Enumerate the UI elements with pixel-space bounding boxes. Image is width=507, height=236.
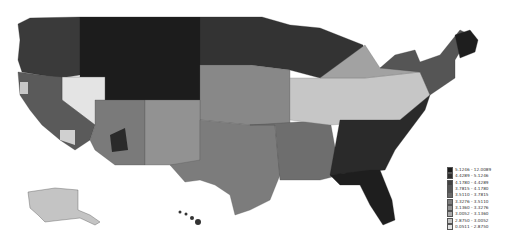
legend-swatch [447,224,453,230]
map-legend: 5.1246 - 12.0089 4.4289 - 5.1246 4.1780 … [447,167,505,230]
region-florida [330,170,395,225]
legend-label: 3.5110 - 3.7815 [455,192,488,198]
legend-label: 3.0052 - 3.1360 [455,211,488,217]
legend-label: 4.4289 - 5.1246 [455,173,488,179]
legend-label: 3.3276 - 3.5110 [455,199,488,205]
legend-label: 3.1360 - 3.3276 [455,205,488,211]
region-pacific-northwest [18,17,80,78]
region-california-light [20,82,28,94]
legend-row: 0.0511 - 2.8750 [447,224,505,230]
legend-swatch [447,205,453,211]
legend-label: 2.8750 - 3.0052 [455,218,488,224]
legend-label: 0.0511 - 2.8750 [455,224,488,230]
legend-label: 3.7815 - 4.1780 [455,186,488,192]
legend-label: 5.1246 - 12.0089 [455,167,491,173]
legend-swatch [447,211,453,217]
legend-swatch [447,218,453,224]
region-alaska [28,188,100,225]
choropleth-map [0,0,507,236]
legend-swatch [447,192,453,198]
legend-swatch [447,180,453,186]
legend-swatch [447,186,453,192]
legend-label: 4.1780 - 4.4289 [455,180,488,186]
legend-swatch [447,167,453,173]
legend-swatch [447,173,453,179]
region-hawaii [179,211,202,226]
region-central-plains [200,65,290,125]
region-colorado [145,100,200,165]
legend-swatch [447,199,453,205]
